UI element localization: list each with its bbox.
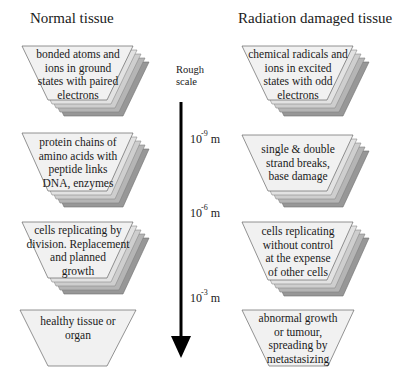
- tick-unit: m: [211, 206, 220, 220]
- text-line: metastasizing: [248, 353, 348, 367]
- scale-label: Rough scale: [176, 64, 204, 88]
- text-line: chemical radicals and: [244, 48, 352, 62]
- text-line: abnormal growth: [248, 312, 348, 326]
- text-line: electrons: [28, 89, 128, 103]
- box-text: abnormal growth or tumour, spreading by …: [248, 312, 348, 366]
- text-line: amino acids with: [28, 150, 128, 164]
- tick-unit: m: [211, 132, 220, 146]
- text-line: and planned: [24, 251, 132, 265]
- box-text: healthy tissue or organ: [28, 315, 128, 342]
- text-line: of other cells: [248, 266, 348, 280]
- text-line: growth: [24, 265, 132, 279]
- box-text: bonded atoms and ions in ground states w…: [28, 48, 128, 102]
- tick-exponent: -9: [201, 129, 208, 138]
- text-line: ions in ground: [28, 62, 128, 76]
- text-line: without control: [248, 239, 348, 253]
- text-line: peptide links: [28, 163, 128, 177]
- text-line: cells replicating by: [24, 224, 132, 238]
- text-line: protein chains of: [28, 136, 128, 150]
- text-line: bonded atoms and: [28, 48, 128, 62]
- box-text: chemical radicals and ions in excited st…: [244, 48, 352, 102]
- normal-level-molecular: protein chains of amino acids with pepti…: [22, 133, 162, 213]
- scale-tick-nano: 10-9 m: [190, 131, 220, 147]
- scale-label-line1: Rough: [176, 64, 204, 76]
- box-text: single & double strand breaks, base dama…: [248, 143, 348, 184]
- damaged-level-tissue: abnormal growth or tumour, spreading by …: [242, 310, 382, 380]
- text-line: at the expense: [248, 252, 348, 266]
- scale-label-line2: scale: [176, 76, 204, 88]
- text-line: division. Replacement: [24, 238, 132, 252]
- text-line: healthy tissue or: [28, 315, 128, 329]
- text-line: ions in excited: [244, 62, 352, 76]
- tick-unit: m: [211, 291, 220, 305]
- text-line: states with odd: [244, 75, 352, 89]
- text-line: electrons: [244, 89, 352, 103]
- scale-tick-micro: 10-6 m: [190, 205, 220, 221]
- damaged-level-molecular: single & double strand breaks, base dama…: [242, 135, 382, 215]
- text-line: strand breaks,: [248, 157, 348, 171]
- normal-level-tissue: healthy tissue or organ: [20, 310, 160, 370]
- scale-tick-milli: 10-3 m: [190, 290, 220, 306]
- damaged-level-cellular: cells replicating without control at the…: [242, 222, 382, 302]
- normal-level-cellular: cells replicating by division. Replaceme…: [22, 222, 162, 302]
- heading-radiation-damaged-tissue: Radiation damaged tissue: [238, 10, 392, 27]
- text-line: organ: [28, 329, 128, 343]
- text-line: single & double: [248, 143, 348, 157]
- heading-normal-tissue: Normal tissue: [30, 10, 114, 27]
- box-text: cells replicating without control at the…: [248, 225, 348, 279]
- tick-exponent: -3: [201, 288, 208, 297]
- text-line: DNA, enzymes: [28, 177, 128, 191]
- text-line: cells replicating: [248, 225, 348, 239]
- box-text: protein chains of amino acids with pepti…: [28, 136, 128, 190]
- text-line: spreading by: [248, 339, 348, 353]
- text-line: states with paired: [28, 75, 128, 89]
- text-line: or tumour,: [248, 326, 348, 340]
- damaged-level-atomic: chemical radicals and ions in excited st…: [242, 46, 382, 126]
- normal-level-atomic: bonded atoms and ions in ground states w…: [22, 46, 162, 126]
- box-text: cells replicating by division. Replaceme…: [24, 224, 132, 278]
- tick-exponent: -6: [201, 203, 208, 212]
- text-line: base damage: [248, 170, 348, 184]
